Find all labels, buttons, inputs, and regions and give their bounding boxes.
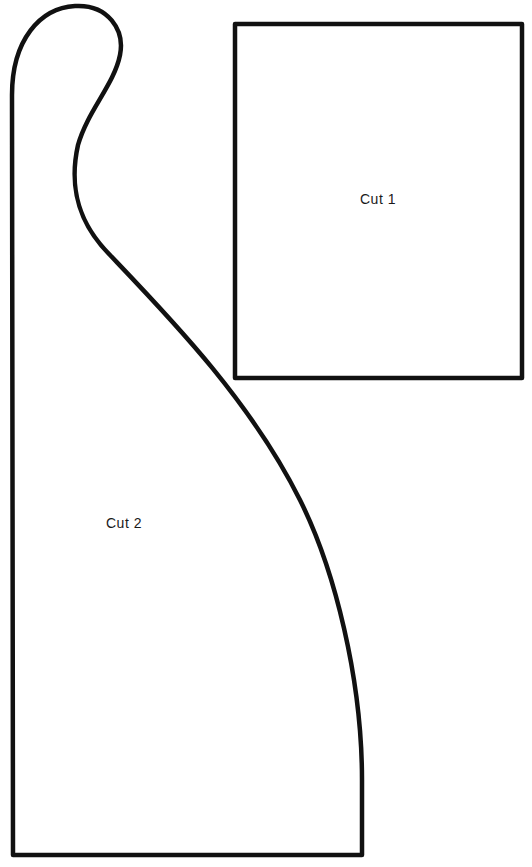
pattern-drawing xyxy=(0,0,532,867)
pattern-piece-cut-2-label: Cut 2 xyxy=(106,516,142,530)
pattern-sheet: Cut 1 Cut 2 xyxy=(0,0,532,867)
pattern-piece-cut-1-label: Cut 1 xyxy=(360,192,396,206)
pattern-piece-cut-2-outline xyxy=(12,6,362,855)
